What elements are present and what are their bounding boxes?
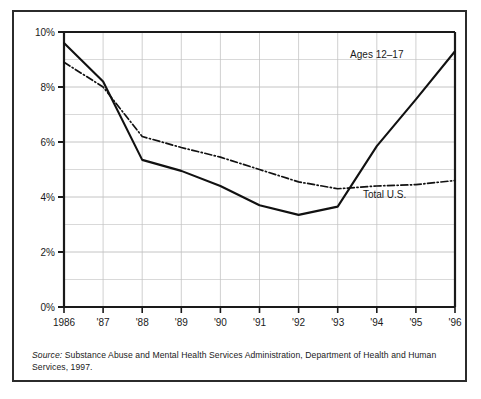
x-tick-label: '93 (331, 317, 344, 328)
x-tick-label: '90 (214, 317, 227, 328)
y-tick-label: 8% (41, 82, 56, 93)
x-tick-label: '96 (448, 317, 461, 328)
y-tick-label: 10% (35, 27, 55, 38)
x-axis-tick-labels: 1986'87'88'89'90'91'92'93'94'95'96 (53, 317, 462, 328)
x-tick-label: '91 (253, 317, 266, 328)
y-axis-tick-labels: 0%2%4%6%8%10% (35, 27, 55, 313)
source-text: Substance Abuse and Mental Health Servic… (32, 350, 436, 372)
axis-tick-marks (58, 32, 455, 313)
source-label: Source: (32, 350, 62, 360)
chart-plot-area: 0%2%4%6%8%10% 1986'87'88'89'90'91'92'93'… (14, 12, 469, 342)
x-tick-label: '87 (97, 317, 110, 328)
x-tick-label: 1986 (53, 317, 76, 328)
line-chart: 0%2%4%6%8%10% 1986'87'88'89'90'91'92'93'… (14, 12, 469, 342)
series-inline-labels: Ages 12–17Total U.S. (350, 49, 406, 200)
x-tick-label: '94 (370, 317, 383, 328)
y-tick-label: 2% (41, 247, 56, 258)
x-tick-label: '89 (175, 317, 188, 328)
x-tick-label: '92 (292, 317, 305, 328)
x-tick-label: '95 (409, 317, 422, 328)
y-tick-label: 4% (41, 192, 56, 203)
series-label-total-u-s: Total U.S. (363, 189, 406, 200)
x-tick-label: '88 (136, 317, 149, 328)
y-tick-label: 6% (41, 137, 56, 148)
source-note: Source: Substance Abuse and Mental Healt… (32, 350, 447, 373)
series-label-ages-12-17: Ages 12–17 (350, 49, 404, 60)
y-tick-label: 0% (41, 302, 56, 313)
figure-panel: 0%2%4%6%8%10% 1986'87'88'89'90'91'92'93'… (12, 10, 467, 382)
